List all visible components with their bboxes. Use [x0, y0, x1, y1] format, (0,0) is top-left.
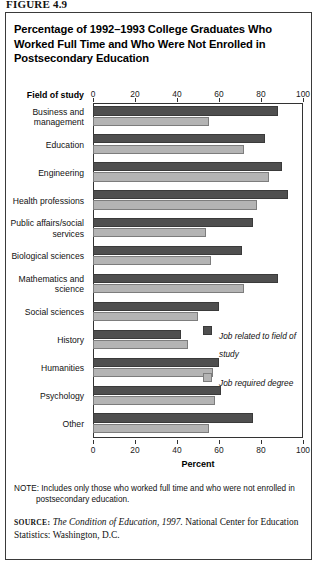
category-label: Social sciences — [0, 307, 84, 317]
category-axis-header: Field of study — [0, 90, 88, 100]
bar-group — [93, 298, 303, 326]
x-axis-tick-label: 40 — [172, 445, 181, 455]
bar-group — [93, 103, 303, 131]
bar-group — [93, 131, 303, 159]
x-axis-tick-label: 100 — [296, 89, 310, 99]
bar-job-related — [93, 358, 219, 367]
bar-job-required — [93, 368, 213, 377]
bar-group — [93, 410, 303, 438]
category-label-line: Business and — [0, 107, 84, 117]
category-label: Health professions — [0, 196, 84, 206]
category-label-line: Biological sciences — [0, 251, 84, 261]
bar-job-required — [93, 117, 209, 126]
x-axis-tickmark — [303, 440, 304, 444]
x-axis-tick-label: 0 — [91, 89, 96, 99]
bar-group — [93, 159, 303, 187]
bar-job-related — [93, 386, 221, 395]
bar-job-related — [93, 302, 219, 311]
figure-source: SOURCE: The Condition of Education, 1997… — [14, 516, 299, 542]
legend-swatch-job-required — [203, 373, 212, 382]
bar-job-required — [93, 312, 198, 321]
source-label: SOURCE: — [14, 518, 50, 527]
figure-number: FIGURE 4.9 — [6, 0, 67, 10]
x-axis-tickmark — [177, 440, 178, 444]
x-axis-tick-label: 20 — [130, 89, 139, 99]
bar-job-required — [93, 200, 257, 209]
category-label-line: science — [0, 284, 84, 294]
note-line-2: postsecondary education. — [14, 494, 299, 505]
note-line-1: Includes only those who worked full time… — [39, 484, 295, 493]
category-label-line: services — [0, 229, 84, 239]
category-label: Humanities — [0, 363, 84, 373]
category-label-line: Other — [0, 419, 84, 429]
x-axis-top: 020406080100 — [93, 89, 303, 102]
legend-label: Job required degree — [219, 378, 293, 388]
category-label-line: Humanities — [0, 363, 84, 373]
category-label: Business andmanagement — [0, 107, 84, 128]
bar-job-required — [93, 256, 211, 265]
figure-note: NOTE: Includes only those who worked ful… — [14, 483, 299, 505]
x-axis-bottom: 020406080100 — [93, 440, 303, 454]
category-label: History — [0, 335, 84, 345]
bar-job-related — [93, 162, 282, 171]
category-label: Education — [0, 140, 84, 150]
category-label-line: Social sciences — [0, 307, 84, 317]
x-axis-tick-label: 20 — [130, 445, 139, 455]
bar-job-related — [93, 246, 242, 255]
category-labels: Business andmanagementEducationEngineeri… — [0, 103, 88, 438]
bar-group — [93, 187, 303, 215]
category-label-line: Health professions — [0, 196, 84, 206]
category-label-line: Engineering — [0, 168, 84, 178]
bar-job-related — [93, 190, 288, 199]
x-axis-tick-label: 100 — [296, 445, 310, 455]
bar-job-required — [93, 284, 244, 293]
category-label-line: Mathematics and — [0, 274, 84, 284]
category-label-line: Education — [0, 140, 84, 150]
bar-job-required — [93, 340, 188, 349]
x-axis-label: Percent — [93, 459, 303, 469]
category-label: Engineering — [0, 168, 84, 178]
category-label-line: management — [0, 117, 84, 127]
legend-item: Job required degree — [203, 372, 299, 390]
category-label: Public affairs/socialservices — [0, 218, 84, 239]
x-axis-tick-label: 60 — [214, 89, 223, 99]
bar-job-required — [93, 396, 215, 405]
x-axis-tickmark — [261, 440, 262, 444]
bar-group — [93, 271, 303, 299]
category-label: Biological sciences — [0, 251, 84, 261]
source-publication: The Condition of Education, 1997. — [50, 517, 183, 527]
bar-job-related — [93, 134, 265, 143]
category-label: Mathematics andscience — [0, 274, 84, 295]
category-label: Psychology — [0, 391, 84, 401]
x-axis-tickmark — [135, 440, 136, 444]
x-axis-tickmark — [219, 440, 220, 444]
note-label: NOTE: — [14, 484, 39, 493]
x-axis-tick-label: 80 — [256, 89, 265, 99]
legend-item: Job related to field of study — [203, 325, 299, 361]
bar-group — [93, 243, 303, 271]
category-label-line: Public affairs/social — [0, 218, 84, 228]
bar-job-related — [93, 106, 278, 115]
x-axis-tick-label: 0 — [91, 445, 96, 455]
x-axis-tick-label: 40 — [172, 89, 181, 99]
bar-job-required — [93, 228, 206, 237]
x-axis-tick-label: 60 — [214, 445, 223, 455]
bar-job-related — [93, 330, 181, 339]
chart-legend: Job related to field of studyJob require… — [203, 325, 299, 401]
bar-job-related — [93, 413, 253, 422]
bar-job-required — [93, 172, 269, 181]
figure-title: Percentage of 1992–1993 College Graduate… — [14, 22, 296, 66]
category-label: Other — [0, 419, 84, 429]
bar-job-related — [93, 274, 278, 283]
legend-label: Job related to field of study — [219, 331, 296, 359]
category-label-line: Psychology — [0, 391, 84, 401]
x-axis-tickmark — [93, 440, 94, 444]
category-label-line: History — [0, 335, 84, 345]
bar-job-related — [93, 218, 253, 227]
legend-swatch-job-related — [203, 326, 212, 335]
x-axis-tick-label: 80 — [256, 445, 265, 455]
bar-job-required — [93, 145, 244, 154]
bar-group — [93, 215, 303, 243]
bar-job-required — [93, 424, 209, 433]
